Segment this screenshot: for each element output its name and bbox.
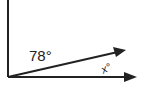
angle-label-78: 78° bbox=[29, 47, 52, 64]
angle-label-x: x° bbox=[98, 60, 113, 76]
arrowhead-icon bbox=[124, 72, 137, 82]
angle-diagram: 78° x° bbox=[0, 0, 144, 95]
arrowhead-icon bbox=[113, 47, 126, 57]
